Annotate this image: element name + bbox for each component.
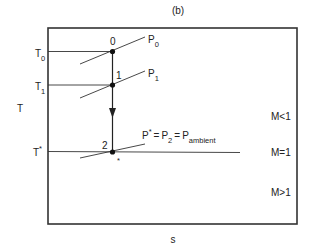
state-label-0: 0 — [110, 36, 116, 47]
p1-label: P1 — [148, 68, 159, 83]
plot-frame — [48, 28, 297, 224]
t0-label: T0 — [35, 48, 45, 63]
t1-label: T1 — [35, 81, 45, 96]
state-label-star: * — [117, 156, 120, 165]
p2-ambient-label: P*=P2=Pambient — [142, 127, 216, 145]
y-axis-label: T — [17, 103, 23, 114]
state-point-2 — [110, 149, 115, 154]
tstar-label: T* — [33, 144, 42, 158]
p0-label: P0 — [148, 34, 159, 49]
mach-region-sonic: M=1 — [271, 147, 291, 158]
state-label-1: 1 — [116, 70, 122, 81]
state-point-0 — [110, 49, 115, 54]
flow-direction-arrow-icon — [109, 108, 116, 118]
ts-diagram: (b) T s T0 T1 T* P0 P1 P*=P2=Pambient 0 … — [0, 0, 312, 252]
state-point-1 — [110, 82, 115, 87]
x-axis-label: s — [171, 234, 176, 245]
temperature-level-t1: T1 — [35, 81, 112, 96]
mach-region-supersonic: M>1 — [271, 187, 291, 198]
panel-label: (b) — [172, 5, 184, 16]
state-label-2: 2 — [102, 140, 108, 151]
mach-region-subsonic: M<1 — [271, 111, 291, 122]
tstar-line — [48, 152, 240, 153]
